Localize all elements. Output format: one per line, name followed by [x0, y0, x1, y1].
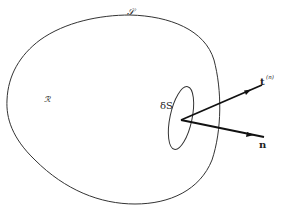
traction-superscript-label: (n)	[266, 74, 274, 80]
boundary-curve	[7, 15, 220, 204]
region-label: ℛ	[44, 95, 51, 104]
traction-vector-label: t	[260, 76, 265, 87]
surface-element-ellipse	[164, 84, 199, 151]
normal-vector-label: n	[259, 139, 267, 150]
normal-arrowhead-icon	[246, 132, 254, 137]
diagram-canvas: 𝒮 ℛ δS t (n) n	[0, 0, 283, 209]
traction-arrowhead-icon	[244, 90, 251, 96]
surface-element-label: δS	[160, 100, 173, 111]
diagram-svg: 𝒮 ℛ δS t (n) n	[0, 0, 283, 209]
